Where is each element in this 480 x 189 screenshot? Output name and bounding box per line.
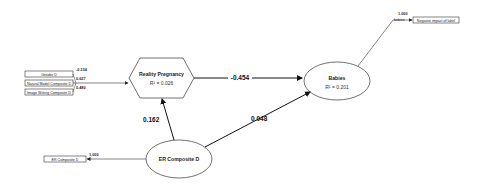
babies-r2: R² = 0.201	[325, 84, 349, 90]
path-coef-er-to-babies: 0.048	[251, 115, 268, 122]
babies-name: Babies	[328, 75, 345, 81]
babies-indicator-prefix: babies	[394, 18, 405, 22]
indicator-image-writing-label: Image Writing Composite D	[27, 91, 71, 95]
construct-reality-pregnancy[interactable]: Reality Pregnancy R² = 0.026	[129, 58, 194, 98]
indicator-natural-model-label: Natural Model Composite D	[27, 82, 72, 86]
indicator-er-composite-label: ER Composite D	[52, 158, 79, 162]
loading-er-composite: 1.000	[89, 153, 99, 157]
indicator-er-composite[interactable]: ER Composite D	[44, 156, 86, 162]
indicator-gender-label: Gender D	[41, 73, 57, 77]
indicator-gender[interactable]: Gender D	[25, 71, 73, 77]
indicator-negative-impact-label: Negative impact of label	[417, 19, 456, 23]
reality-pregnancy-name: Reality Pregnancy	[139, 71, 184, 77]
sem-diagram: Gender D Natural Model Composite D Image…	[0, 0, 480, 189]
loading-natural-model: 0.627	[76, 77, 86, 81]
path-coef-er-to-rp: 0.162	[143, 116, 160, 123]
indicator-natural-model[interactable]: Natural Model Composite D	[25, 80, 73, 86]
indicator-image-writing[interactable]: Image Writing Composite D	[25, 89, 73, 95]
loading-negative-impact: 1.000	[398, 12, 408, 16]
er-composite-name: ER Composite D	[159, 156, 200, 162]
construct-babies[interactable]: Babies R² = 0.201	[304, 62, 370, 100]
loading-image-writing: 0.480	[76, 86, 86, 90]
indicator-negative-impact[interactable]: Negative impact of label	[413, 17, 459, 23]
loading-gender: -0.134	[76, 68, 88, 72]
path-coef-rp-to-babies: -0.454	[231, 74, 250, 81]
path-er-to-rp	[162, 99, 174, 140]
reality-pregnancy-r2: R² = 0.026	[150, 80, 174, 86]
babies-indicator-line	[358, 20, 393, 66]
construct-er-composite[interactable]: ER Composite D	[146, 140, 212, 178]
